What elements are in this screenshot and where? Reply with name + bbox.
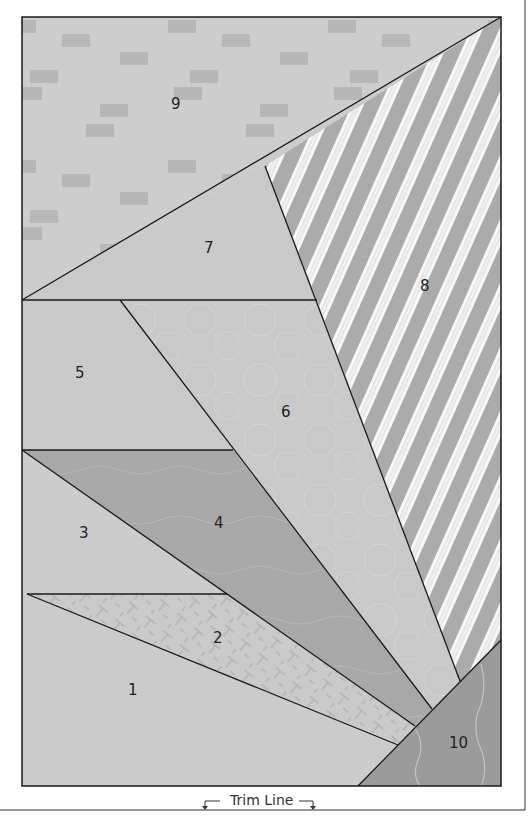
section-label-7: 7 (204, 239, 214, 257)
section-label-2: 2 (213, 629, 223, 647)
section-label-1: 1 (128, 681, 138, 699)
section-label-3: 3 (79, 524, 89, 542)
section-label-8: 8 (420, 277, 430, 295)
section-label-9: 9 (171, 95, 181, 113)
section-label-6: 6 (281, 403, 291, 421)
paper-piecing-diagram: 9 8 7 6 5 4 3 2 1 10 Trim Line (0, 0, 531, 827)
section-label-10: 10 (449, 734, 468, 752)
section-label-5: 5 (75, 364, 85, 382)
trim-line-label: Trim Line (229, 792, 293, 808)
section-label-4: 4 (214, 514, 224, 532)
